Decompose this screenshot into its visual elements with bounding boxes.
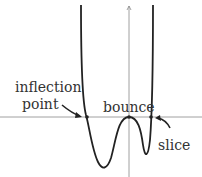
- slice-arrowhead-icon: [155, 115, 161, 121]
- inflection-arrowhead-icon: [75, 112, 82, 118]
- polynomial-diagram: inflection point bounce slice: [0, 0, 202, 177]
- inflection-label-line2: point: [22, 97, 59, 112]
- slice-label: slice: [158, 138, 190, 153]
- bounce-label: bounce: [103, 100, 155, 115]
- bounce-point-dot: [127, 115, 131, 119]
- polynomial-curve: [81, 5, 153, 168]
- inflection-label-line1: inflection: [15, 80, 82, 95]
- inflection-point-dot: [85, 115, 89, 119]
- slice-point-dot: [149, 115, 153, 119]
